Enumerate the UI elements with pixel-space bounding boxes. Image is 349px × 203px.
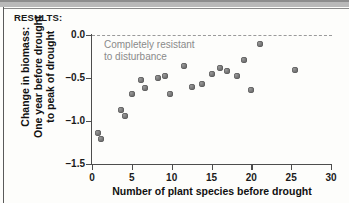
data-point [122, 113, 128, 119]
x-tick-mark [92, 165, 93, 170]
data-point [224, 68, 230, 74]
data-point [257, 41, 263, 47]
data-point [234, 73, 240, 79]
data-point [199, 81, 205, 87]
data-point [138, 77, 144, 83]
x-tick-mark [331, 165, 332, 170]
y-tick-label: –1.5 [66, 158, 85, 169]
data-point [209, 71, 215, 77]
x-tick-label: 30 [319, 172, 343, 183]
x-axis-title: Number of plant species before drought [92, 185, 332, 197]
x-tick-label: 20 [239, 172, 263, 183]
data-point [189, 84, 195, 90]
plot-area [92, 35, 331, 164]
y-axis-title: Change in biomass: One year before droug… [19, 0, 57, 157]
y-tick-label: –0.5 [66, 72, 85, 83]
x-tick-label: 5 [120, 172, 144, 183]
x-tick-label: 0 [80, 172, 104, 183]
x-tick-mark [172, 165, 173, 170]
x-tick-mark [132, 165, 133, 170]
data-point [292, 67, 298, 73]
data-point [118, 107, 124, 113]
results-figure-panel: RESULTS: 0.0–0.5–1.0–1.5 051015202530 Co… [0, 0, 349, 203]
x-tick-label: 15 [200, 172, 224, 183]
y-tick-label: –1.0 [66, 115, 85, 126]
data-point [241, 57, 247, 63]
data-point [142, 85, 148, 91]
data-point [181, 63, 187, 69]
scatter-chart: 0.0–0.5–1.0–1.5 051015202530 Completely … [0, 0, 349, 203]
y-tick-label: 0.0 [71, 29, 85, 40]
data-point [162, 73, 168, 79]
data-point [167, 91, 173, 97]
data-point [98, 136, 104, 142]
data-point [217, 65, 223, 71]
x-tick-mark [212, 165, 213, 170]
x-tick-label: 25 [279, 172, 303, 183]
x-tick-mark [251, 165, 252, 170]
data-point [155, 75, 161, 81]
x-tick-label: 10 [160, 172, 184, 183]
x-tick-mark [291, 165, 292, 170]
data-point [129, 91, 135, 97]
data-point [248, 87, 254, 93]
